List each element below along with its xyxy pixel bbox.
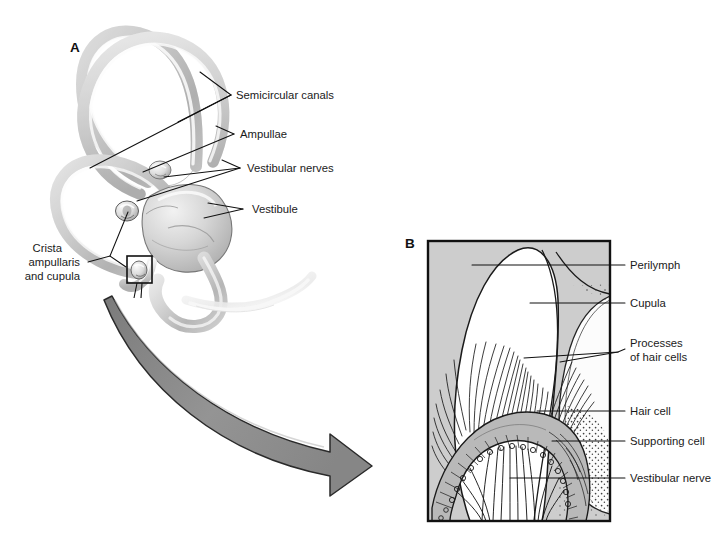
label-processes-line-1: Processes bbox=[630, 337, 683, 349]
panel-b-illustration: B Perilymph Cupula Processes of hair cel… bbox=[0, 0, 712, 533]
label-supporting-cell: Supporting cell bbox=[630, 435, 705, 447]
label-cupula: Cupula bbox=[630, 297, 667, 309]
label-vestibular-nerve: Vestibular nerve bbox=[630, 472, 711, 484]
label-hair-cell: Hair cell bbox=[630, 405, 671, 417]
anatomical-figure: A Semicircular canals Ampullae Vestibula… bbox=[0, 0, 712, 533]
label-perilymph: Perilymph bbox=[630, 259, 680, 271]
label-processes-line-2: of hair cells bbox=[630, 351, 687, 363]
panel-b-letter: B bbox=[405, 236, 415, 251]
